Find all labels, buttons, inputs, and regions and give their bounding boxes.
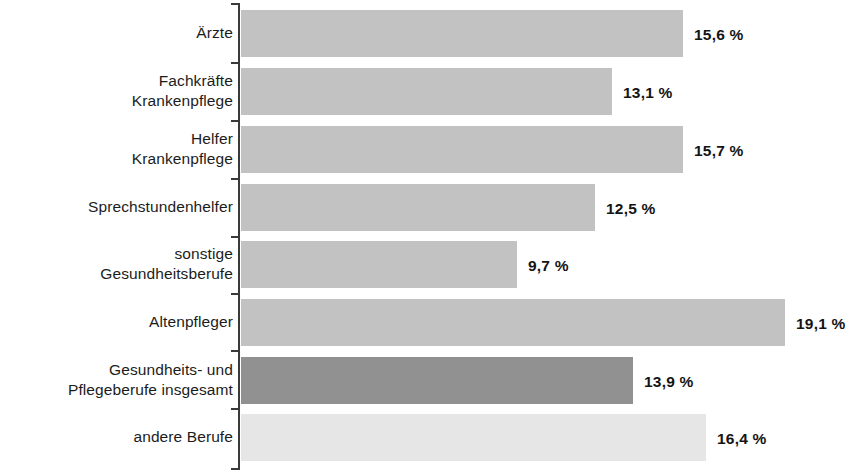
bar-segment <box>241 299 785 346</box>
value-label: 13,9 % <box>644 374 693 390</box>
bar-row: Helfer Krankenpflege 15,7 % <box>0 126 853 173</box>
value-label: 9,7 % <box>528 258 569 274</box>
axis-tick <box>231 293 239 295</box>
axis-tick <box>231 3 239 5</box>
category-label: Fachkräfte Krankenpflege <box>0 71 233 111</box>
category-label: Altenpfleger <box>0 312 233 332</box>
value-label: 12,5 % <box>606 201 655 217</box>
value-label: 19,1 % <box>796 316 845 332</box>
category-label: andere Berufe <box>0 427 233 447</box>
axis-tick <box>231 236 239 238</box>
category-label: Gesundheits- und Pflegeberufe insgesamt <box>0 360 233 400</box>
bar-segment <box>241 126 683 173</box>
bar-row: Fachkräfte Krankenpflege 13,1 % <box>0 68 853 115</box>
bar-segment <box>241 10 683 57</box>
bar-row: sonstige Gesundheitsberufe 9,7 % <box>0 241 853 288</box>
bar-segment <box>241 68 612 115</box>
bar-row: Gesundheits- und Pflegeberufe insgesamt … <box>0 357 853 404</box>
bar-row: andere Berufe 16,4 % <box>0 414 853 461</box>
category-label: sonstige Gesundheitsberufe <box>0 244 233 284</box>
value-label: 15,7 % <box>694 143 743 159</box>
bar-row: Sprechstundenhelfer 12,5 % <box>0 184 853 231</box>
value-label: 15,6 % <box>694 27 743 43</box>
category-label: Sprechstundenhelfer <box>0 197 233 217</box>
bar-segment-light <box>241 414 706 461</box>
bar-row: Ärzte 15,6 % <box>0 10 853 57</box>
bar-segment-highlight <box>241 357 633 404</box>
category-label: Ärzte <box>0 23 233 43</box>
bar-row: Altenpfleger 19,1 % <box>0 299 853 346</box>
bar-segment <box>241 184 595 231</box>
axis-tick <box>231 350 239 352</box>
axis-tick <box>231 62 239 64</box>
axis-tick <box>231 120 239 122</box>
axis-tick <box>231 468 239 470</box>
axis-tick <box>231 178 239 180</box>
bar-segment <box>241 241 517 288</box>
category-label: Helfer Krankenpflege <box>0 129 233 169</box>
bar-chart: Ärzte 15,6 % Fachkräfte Krankenpflege 13… <box>0 0 853 473</box>
value-label: 16,4 % <box>717 431 766 447</box>
value-label: 13,1 % <box>623 85 672 101</box>
axis-tick <box>231 408 239 410</box>
